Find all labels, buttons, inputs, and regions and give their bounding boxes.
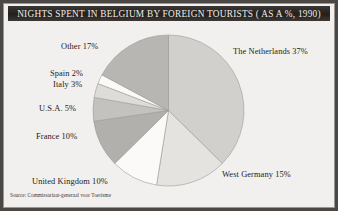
slice-label-italy: Italy 3%: [53, 80, 82, 89]
slice-label-west-germany: West Germany 15%: [222, 170, 291, 179]
slice-label-other: Other 17%: [61, 42, 98, 51]
pie-slice-group: [93, 35, 244, 186]
chart-figure: NIGHTS SPENT IN BELGIUM BY FOREIGN TOURI…: [0, 0, 338, 211]
slice-label-united-kingdom: United Kingdom 10%: [32, 177, 108, 186]
slice-label-spain: Spain 2%: [50, 69, 83, 78]
source-note: Source: Commissariaat-generaal voor Toer…: [10, 192, 111, 198]
slice-label-usa: U.S.A. 5%: [39, 104, 76, 113]
slice-label-the-netherlands: The Netherlands 37%: [233, 47, 308, 56]
slice-label-france: France 10%: [36, 132, 77, 141]
